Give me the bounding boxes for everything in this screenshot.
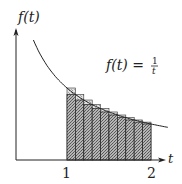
y-axis-label: f(t) [17, 9, 40, 25]
x-axis-label: t [168, 151, 174, 166]
lower-rectangle [126, 120, 134, 160]
lower-rectangle [109, 115, 117, 160]
lower-rectangle [101, 112, 109, 160]
fraction-denominator: t [152, 66, 156, 76]
function-label: f(t) = [105, 57, 144, 73]
lower-rectangle [117, 118, 125, 160]
tick-label-2: 2 [147, 165, 156, 181]
riemann-sum-diagram: f(t) t f(t) = 1 t 1 2 [0, 0, 182, 184]
rectangles-group [67, 88, 151, 160]
lower-rectangle [84, 105, 92, 160]
lower-rectangle [75, 100, 83, 160]
lower-rectangle [67, 95, 75, 160]
lower-rectangle [143, 124, 151, 160]
tick-label-1: 1 [62, 165, 71, 181]
fraction-numerator: 1 [152, 56, 158, 66]
lower-rectangle [134, 122, 142, 160]
lower-rectangle [92, 109, 100, 160]
